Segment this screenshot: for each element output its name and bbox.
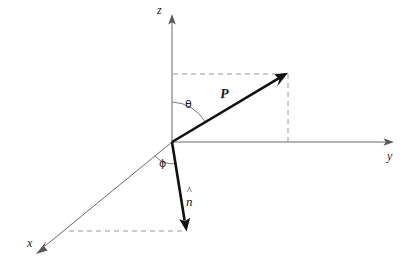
- x-axis-group: [36, 142, 172, 254]
- azimuthal-angle-label: ϕ: [159, 158, 166, 169]
- unit-normal-vector-letter: n: [186, 194, 193, 209]
- position-vector-label: P: [220, 87, 229, 101]
- z-axis-group: [168, 14, 176, 142]
- unit-normal-vector-line: [172, 142, 185, 221]
- projection-lines-group: [69, 74, 288, 231]
- diagram-svg: [0, 0, 414, 270]
- unit-normal-vector-label: ^ n: [186, 188, 193, 208]
- x-axis-arrowhead-icon: [36, 242, 48, 254]
- x-axis-label: x: [27, 237, 32, 249]
- z-axis-label: z: [157, 4, 162, 16]
- y-axis-group: [172, 138, 394, 146]
- polar-angle-label: θ: [185, 99, 192, 110]
- y-axis-label: y: [387, 150, 392, 162]
- figure-canvas: z y x θ ϕ P ^ n: [0, 0, 414, 270]
- x-axis-line: [45, 142, 172, 246]
